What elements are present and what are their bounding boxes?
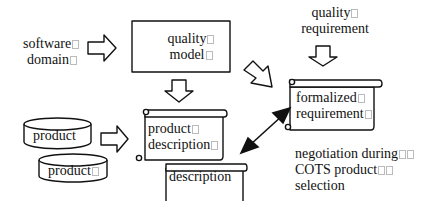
diagram-canvas: software domain quality model quality re… bbox=[0, 0, 431, 201]
formalized-requirement-label: formalized requirement bbox=[296, 90, 372, 122]
software-domain-label: software domain bbox=[23, 36, 79, 68]
block-arrow-diagonal-icon bbox=[244, 61, 272, 87]
quality-model-label: quality model bbox=[132, 31, 230, 63]
negotiation-note: negotiation during COTS product selectio… bbox=[295, 146, 414, 194]
block-arrow-down-icon bbox=[165, 80, 193, 102]
product-database-2-label: product bbox=[48, 163, 99, 179]
block-arrow-down-icon bbox=[309, 46, 337, 66]
description-label: description bbox=[169, 169, 231, 185]
double-headed-arrow-icon bbox=[241, 108, 290, 153]
quality-requirement-label: quality requirement bbox=[290, 5, 380, 37]
block-arrow-right-icon bbox=[101, 126, 128, 152]
block-arrow-right-icon bbox=[88, 35, 116, 61]
product-database-1-label: product bbox=[33, 128, 76, 144]
product-description-label: product description bbox=[148, 121, 218, 153]
